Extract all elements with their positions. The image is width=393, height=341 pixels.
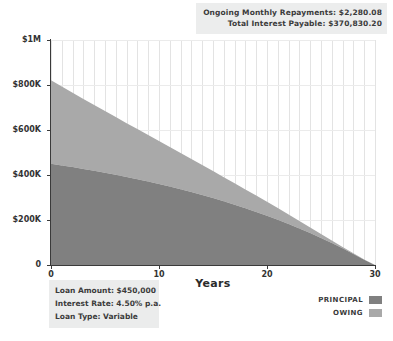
legend-item: PRINCIPAL [296,293,382,306]
total-interest-text: Total Interest Payable: $370,830.20 [201,18,382,29]
gridline-vertical [375,40,376,265]
y-tick-label: $600K [1,125,41,134]
y-tick-label: $1M [1,35,41,44]
loan-amount-text: Loan Amount: $450,000 [55,284,153,297]
loan-type-text: Loan Type: Variable [55,310,153,323]
y-tick-label: $800K [1,80,41,89]
area-chart-svg [51,40,375,265]
y-axis-line [50,39,51,266]
y-tick-label: $200K [1,215,41,224]
chart-legend: PRINCIPALOWING [296,293,382,319]
summary-box: Ongoing Monthly Repayments: $2,280.08 To… [196,3,387,34]
legend-item: OWING [296,306,382,319]
interest-rate-text: Interest Rate: 4.50% p.a. [55,297,153,310]
y-tick-label: 0 [1,260,41,269]
loan-amortization-chart: Ongoing Monthly Repayments: $2,280.08 To… [0,0,393,341]
monthly-repayments-text: Ongoing Monthly Repayments: $2,280.08 [201,7,382,18]
legend-label: PRINCIPAL [318,296,363,304]
legend-swatch [369,296,382,304]
plot-area [51,40,375,265]
y-tick-label: $400K [1,170,41,179]
x-axis-line [50,265,376,266]
loan-details-box: Loan Amount: $450,000 Interest Rate: 4.5… [49,280,159,328]
legend-swatch [369,309,382,317]
legend-label: OWING [333,309,363,317]
